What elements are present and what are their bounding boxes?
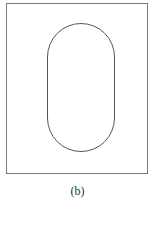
stadium-shape	[47, 23, 115, 152]
figure-caption: (b)	[0, 184, 155, 199]
